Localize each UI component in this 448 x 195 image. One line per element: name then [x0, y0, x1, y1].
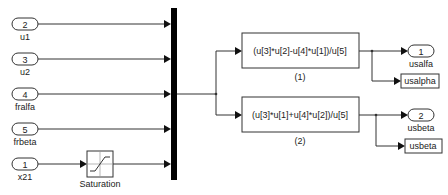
arrow-head-icon [401, 111, 408, 119]
arrow-head-icon [80, 160, 87, 168]
inport-u2[interactable]: 3 u2 [12, 53, 38, 77]
inport-label: frbeta [13, 137, 36, 147]
arrow-head-icon [235, 47, 242, 55]
arrow-head-icon [164, 90, 171, 98]
outport-usbeta[interactable]: 2 usbeta [407, 109, 434, 133]
arrow-head-icon [401, 47, 408, 55]
saturation-block[interactable]: Saturation [79, 151, 120, 189]
arrow-head-icon [235, 111, 242, 119]
fcn-expression: (u[3]*u[2]-u[4]*u[1])/u[5] [253, 46, 347, 56]
signal-lines-mux-out [177, 47, 242, 119]
inport-number: 2 [22, 20, 27, 30]
inport-fralfa[interactable]: 4 fralfa [12, 88, 38, 112]
inport-label: u1 [20, 32, 30, 42]
signal-lines-out-2 [359, 111, 408, 150]
arrow-head-icon [164, 125, 171, 133]
mux-block[interactable] [171, 8, 177, 180]
arrow-head-icon [394, 77, 401, 85]
inport-label: x21 [18, 172, 33, 182]
fcn-label: (1) [295, 72, 306, 82]
inport-x21[interactable]: 1 x21 [12, 158, 38, 182]
fcn-block-1[interactable]: (u[3]*u[2]-u[4]*u[1])/u[5] (1) [242, 33, 359, 82]
goto-usbeta[interactable]: usbeta [405, 139, 442, 153]
diagram-canvas: 2 u1 3 u2 4 fralfa 5 frbeta 1 x21 [0, 0, 448, 195]
inport-label: fralfa [15, 102, 35, 112]
goto-tag: usalpha [404, 76, 436, 86]
outport-number: 1 [418, 47, 423, 57]
outport-number: 2 [418, 111, 423, 121]
outport-label: usbeta [407, 123, 434, 133]
inport-number: 1 [22, 160, 27, 170]
fcn-label: (2) [295, 136, 306, 146]
outport-label: usalfa [409, 59, 433, 69]
inport-label: u2 [20, 67, 30, 77]
outport-usalfa[interactable]: 1 usalfa [408, 45, 434, 69]
inport-number: 5 [22, 125, 27, 135]
saturation-label: Saturation [79, 179, 120, 189]
inport-number: 3 [22, 55, 27, 65]
fcn-block-2[interactable]: (u[3]*u[1]+u[4]*u[2])/u[5] (2) [242, 97, 359, 146]
arrow-head-icon [164, 20, 171, 28]
goto-tag: usbeta [409, 141, 436, 151]
inport-number: 4 [22, 90, 27, 100]
goto-usalpha[interactable]: usalpha [401, 74, 439, 88]
arrow-head-icon [164, 55, 171, 63]
arrow-head-icon [398, 142, 405, 150]
inport-frbeta[interactable]: 5 frbeta [12, 123, 38, 147]
signal-lines-in [38, 20, 171, 168]
arrow-head-icon [164, 160, 171, 168]
fcn-expression: (u[3]*u[1]+u[4]*u[2])/u[5] [252, 110, 348, 120]
inport-u1[interactable]: 2 u1 [12, 18, 38, 42]
